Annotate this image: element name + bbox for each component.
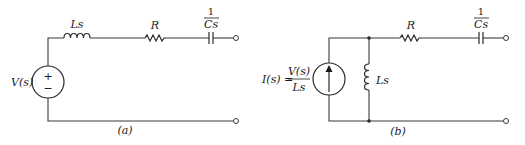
capacitor-icon — [479, 32, 483, 44]
current-source-label-numerator: V(s) — [288, 65, 310, 78]
voltage-source: + − — [32, 66, 64, 98]
capacitor-label-denominator: Cs — [474, 18, 488, 31]
capacitor-label-numerator: 1 — [478, 6, 484, 17]
caption-b: (b) — [390, 125, 406, 138]
voltage-source-label: V(s) — [11, 76, 33, 89]
inductor-icon — [365, 64, 370, 90]
current-source — [313, 63, 345, 95]
current-source-label-denominator: Ls — [292, 81, 306, 94]
circuit-figure: + − V(s) Ls R 1 Cs (a) — [0, 0, 525, 145]
inductor-label: Ls — [375, 74, 389, 87]
terminal-a-bottom — [234, 119, 239, 124]
resistor-icon — [400, 35, 422, 41]
resistor-icon — [145, 35, 166, 41]
caption-a: (a) — [117, 124, 132, 137]
wire-a-bottom — [48, 98, 233, 121]
inductor-icon — [64, 34, 90, 39]
circuit-b: I(s) = V(s) Ls Ls R 1 Cs (b) — [261, 6, 509, 138]
capacitor-label-numerator: 1 — [208, 6, 214, 17]
capacitor-icon — [209, 32, 213, 44]
resistor-label: R — [406, 19, 415, 32]
terminal-a-top — [234, 36, 239, 41]
minus-sign: − — [43, 82, 52, 95]
resistor-label: R — [150, 19, 159, 32]
circuit-a: + − V(s) Ls R 1 Cs (a) — [11, 6, 239, 137]
terminal-b-top — [504, 36, 509, 41]
terminal-b-bottom — [504, 119, 509, 124]
capacitor-label-denominator: Cs — [204, 18, 218, 31]
node-b-top — [367, 36, 371, 40]
wire-b-bottom — [329, 95, 503, 121]
node-b-bottom — [367, 119, 371, 123]
wire-a-top-left — [48, 38, 64, 66]
arrow-head — [326, 65, 333, 72]
wire-b-top-left — [329, 38, 400, 63]
inductor-label: Ls — [70, 18, 84, 31]
